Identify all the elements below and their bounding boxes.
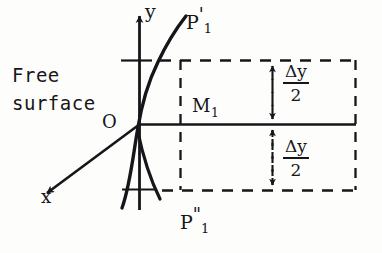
x-axis-label: x <box>41 188 51 206</box>
free-surface-label: Free surface <box>12 62 96 117</box>
free-surface-label-line2: surface <box>12 90 96 118</box>
free-surface-label-line1: Free <box>12 62 96 90</box>
midpoint-label: M1 <box>192 97 219 119</box>
point-upper-label: P'1 <box>186 6 212 36</box>
point-upper-label-base: P <box>186 11 199 33</box>
point-lower-label-prime: " <box>193 204 201 225</box>
delta-y-half-upper: Δy 2 <box>283 62 309 105</box>
point-upper-label-prime: ' <box>199 4 203 25</box>
midpoint-label-subscript: 1 <box>211 106 219 120</box>
delta-y-half-upper-denominator: 2 <box>283 84 309 105</box>
point-upper-label-subscript: 1 <box>204 21 212 36</box>
point-lower-label: P"1 <box>180 206 209 236</box>
point-lower-label-subscript: 1 <box>201 221 209 236</box>
delta-y-half-upper-numerator: Δy <box>283 63 309 84</box>
midpoint-label-base: M <box>192 95 210 116</box>
free-surface-figure: Free surface y x O M1 P'1 P"1 Δy 2 Δy 2 <box>0 0 382 253</box>
origin-label: O <box>102 113 117 131</box>
point-lower-label-base: P <box>180 211 193 233</box>
y-axis-label: y <box>145 2 156 21</box>
delta-y-half-lower: Δy 2 <box>283 137 309 180</box>
free-surface-curve <box>122 16 186 208</box>
delta-y-half-lower-numerator: Δy <box>283 138 309 159</box>
delta-y-half-lower-denominator: 2 <box>283 159 309 180</box>
x-axis <box>47 124 140 193</box>
